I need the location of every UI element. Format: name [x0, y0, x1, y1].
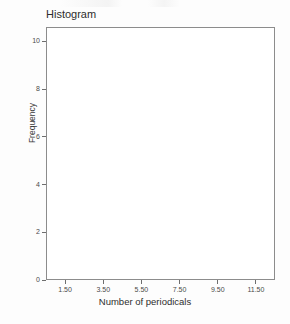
y-tick-label: 0 — [36, 275, 40, 284]
x-tick-label: 9.50 — [211, 285, 225, 294]
plot-frame — [46, 27, 275, 280]
y-tick-mark — [42, 89, 46, 90]
y-tick-label: 8 — [36, 84, 40, 93]
y-tick-label: 2 — [36, 227, 40, 236]
x-tick-label: 1.50 — [58, 285, 72, 294]
y-tick-label: 6 — [36, 132, 40, 141]
x-tick-mark — [65, 280, 66, 284]
x-tick-mark — [141, 280, 142, 284]
x-axis-label: Number of periodicals — [0, 296, 290, 307]
x-tick-label: 7.50 — [173, 285, 187, 294]
plot-area — [47, 28, 274, 279]
x-tick-mark — [255, 280, 256, 284]
y-tick-mark — [42, 184, 46, 185]
x-tick-mark — [103, 280, 104, 284]
y-tick-mark — [42, 280, 46, 281]
y-tick-mark — [42, 136, 46, 137]
y-tick-label: 10 — [32, 36, 40, 45]
y-tick-label: 4 — [36, 180, 40, 189]
x-tick-mark — [179, 280, 180, 284]
chart-title: Histogram — [46, 8, 96, 21]
x-tick-mark — [217, 280, 218, 284]
x-tick-label: 11.50 — [247, 285, 264, 294]
x-tick-label: 3.50 — [96, 285, 110, 294]
y-tick-mark — [42, 41, 46, 42]
histogram-chart: Histogram Frequency 0246810 1.503.505.50… — [0, 0, 290, 324]
x-tick-label: 5.50 — [135, 285, 149, 294]
y-tick-mark — [42, 232, 46, 233]
